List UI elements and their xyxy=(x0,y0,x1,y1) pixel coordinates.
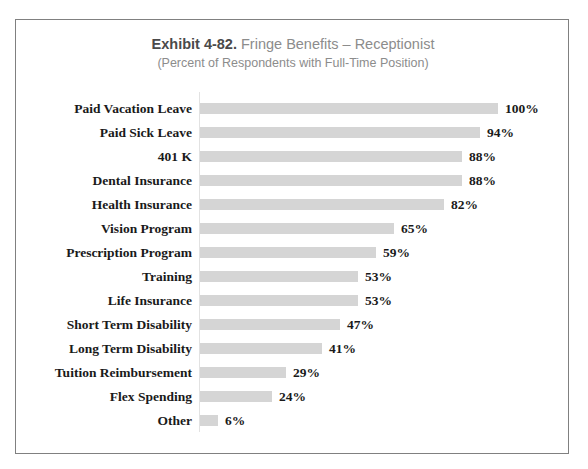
bar-value-label: 65% xyxy=(401,217,428,241)
bar xyxy=(200,127,480,138)
bar-row: Paid Vacation Leave100% xyxy=(16,97,570,121)
bar-row: Prescription Program59% xyxy=(16,241,570,265)
bar xyxy=(200,319,340,330)
bar-category-label: Vision Program xyxy=(16,217,192,241)
bar xyxy=(200,343,322,354)
bar-value-label: 53% xyxy=(365,265,392,289)
bar-value-label: 100% xyxy=(505,97,539,121)
bar-value-label: 88% xyxy=(469,145,496,169)
bar xyxy=(200,415,218,426)
bar-value-label: 6% xyxy=(225,409,245,433)
bar-category-label: Prescription Program xyxy=(16,241,192,265)
bar-value-label: 47% xyxy=(347,313,374,337)
bar-row: Other6% xyxy=(16,409,570,433)
bar-category-label: Life Insurance xyxy=(16,289,192,313)
bar-value-label: 29% xyxy=(293,361,320,385)
bar xyxy=(200,367,286,378)
bar-value-label: 82% xyxy=(451,193,478,217)
bar-category-label: Paid Sick Leave xyxy=(16,121,192,145)
bar-category-label: Short Term Disability xyxy=(16,313,192,337)
bar-row: 401 K88% xyxy=(16,145,570,169)
bar-row: Dental Insurance88% xyxy=(16,169,570,193)
bar-row: Tuition Reimbursement29% xyxy=(16,361,570,385)
bar xyxy=(200,199,444,210)
bar xyxy=(200,151,462,162)
bar xyxy=(200,247,376,258)
bar-category-label: 401 K xyxy=(16,145,192,169)
bar-value-label: 94% xyxy=(487,121,514,145)
bar-value-label: 53% xyxy=(365,289,392,313)
bar-row: Life Insurance53% xyxy=(16,289,570,313)
bar-category-label: Tuition Reimbursement xyxy=(16,361,192,385)
bar-category-label: Other xyxy=(16,409,192,433)
bar xyxy=(200,271,358,282)
bar-category-label: Training xyxy=(16,265,192,289)
bar-row: Long Term Disability41% xyxy=(16,337,570,361)
bar-value-label: 41% xyxy=(329,337,356,361)
bar xyxy=(200,391,272,402)
bar-category-label: Paid Vacation Leave xyxy=(16,97,192,121)
bar-category-label: Health Insurance xyxy=(16,193,192,217)
bar-category-label: Long Term Disability xyxy=(16,337,192,361)
bar-row: Health Insurance82% xyxy=(16,193,570,217)
bar-value-label: 88% xyxy=(469,169,496,193)
exhibit-page: Exhibit 4-82. Fringe Benefits – Receptio… xyxy=(0,0,588,469)
bar xyxy=(200,103,498,114)
bar-row: Flex Spending24% xyxy=(16,385,570,409)
bar-category-label: Flex Spending xyxy=(16,385,192,409)
bar-value-label: 24% xyxy=(279,385,306,409)
bar-value-label: 59% xyxy=(383,241,410,265)
bar xyxy=(200,223,394,234)
chart-frame: Exhibit 4-82. Fringe Benefits – Receptio… xyxy=(15,19,569,454)
bar-row: Vision Program65% xyxy=(16,217,570,241)
bar-chart-plot: Paid Vacation Leave100%Paid Sick Leave94… xyxy=(16,20,570,455)
bar-row: Training53% xyxy=(16,265,570,289)
bar xyxy=(200,175,462,186)
bar xyxy=(200,295,358,306)
bar-category-label: Dental Insurance xyxy=(16,169,192,193)
bar-row: Short Term Disability47% xyxy=(16,313,570,337)
bar-row: Paid Sick Leave94% xyxy=(16,121,570,145)
